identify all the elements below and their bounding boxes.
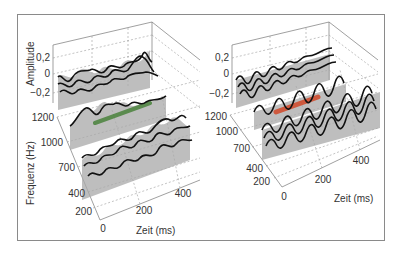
left-freq-tick-4: 200: [75, 206, 92, 217]
right-freq-tick-3: 400: [246, 163, 263, 174]
left-freq-tick-2: 700: [58, 162, 75, 173]
left-time-tick-1: 200: [136, 205, 153, 216]
right-amp-tick-2: −0,2: [209, 88, 229, 99]
right-amp-tick-1: 0: [223, 68, 229, 79]
right-freq-tick-4: 200: [253, 176, 270, 187]
right-freq-tick-2: 700: [233, 143, 250, 154]
figure-canvas: 0,2 0 −0,2 1200 1000 700 400 200 0 200 4…: [0, 0, 398, 255]
right-time-tick-0: 0: [281, 191, 287, 202]
left-amp-tick-2: −0,2: [30, 87, 50, 98]
right-freq-tick-0: 1200: [205, 111, 228, 122]
left-amp-tick-0: 0,2: [36, 52, 50, 63]
left-time-tick-0: 0: [100, 223, 106, 234]
left-amplitude-label: Amplitude: [25, 41, 36, 86]
left-time-label: Zeit (ms): [136, 225, 175, 236]
left-freq-tick-1: 1000: [41, 137, 64, 148]
left-time-tick-2: 400: [175, 188, 192, 199]
left-frequency-label: Frequenz (Hz): [25, 141, 36, 205]
left-amp-tick-1: 0: [44, 68, 50, 79]
left-freq-tick-3: 400: [68, 188, 85, 199]
left-panel: 0,2 0 −0,2 1200 1000 700 400 200 0 200 4…: [25, 22, 200, 236]
left-freq-tick-0: 1200: [32, 112, 55, 123]
right-time-tick-1: 200: [315, 174, 332, 185]
right-amp-tick-0: 0,2: [215, 52, 229, 63]
right-panel: 0,2 0 −0,2 1200 1000 700 400 200 0 200 4…: [205, 22, 380, 204]
right-time-tick-2: 400: [353, 155, 370, 166]
right-time-label: Zeit (ms): [334, 193, 373, 204]
left-upper-traces: [58, 50, 158, 110]
right-freq-tick-1: 1000: [216, 126, 239, 137]
